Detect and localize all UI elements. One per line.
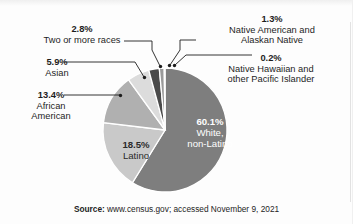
slice-name-asian: Asian: [28, 68, 86, 79]
pie-slice: [164, 68, 165, 130]
slice-label-native-american: 1.3% Native American and Alaskan Native: [196, 14, 348, 46]
leader-dot-asian: [143, 76, 146, 79]
slice-label-two-or-more-races: 2.8% Two or more races: [6, 24, 158, 45]
slice-name-african-american-line2: American: [12, 111, 90, 122]
slice-pct-african-american: 13.4%: [12, 90, 90, 101]
slice-pct-asian: 5.9%: [28, 57, 86, 68]
leader-dot-two-or-more-races: [159, 65, 162, 68]
slice-name-native-american-line2: Alaskan Native: [196, 35, 348, 46]
slice-name-two-or-more-races: Two or more races: [6, 35, 158, 46]
slice-name-latino: Latino: [104, 151, 168, 162]
slice-label-latino: 18.5% Latino: [104, 140, 168, 162]
leader-dot-african-american: [119, 94, 122, 97]
pie-chart: 2.8% Two or more races 5.9% Asian 13.4% …: [0, 0, 353, 224]
slice-name-white-non-latino-line2: non-Latino: [174, 139, 246, 150]
slice-label-asian: 5.9% Asian: [28, 57, 86, 78]
figure-page: 2.8% Two or more races 5.9% Asian 13.4% …: [0, 0, 353, 224]
slice-pct-native-hawaiian: 0.2%: [192, 53, 350, 64]
source-label: Source:: [74, 204, 105, 214]
leader-dot-native-hawaiian: [173, 64, 176, 67]
source-text: www.census.gov; accessed November 9, 202…: [105, 204, 279, 214]
slice-name-native-american-line1: Native American and: [196, 25, 348, 36]
slice-pct-native-american: 1.3%: [196, 14, 348, 25]
slice-label-white-non-latino: 60.1% White, non-Latino: [174, 117, 246, 150]
leader-dot-native-american: [168, 64, 171, 67]
slice-label-african-american: 13.4% African American: [12, 90, 90, 122]
slice-name-native-hawaiian-line2: other Pacific Islander: [192, 74, 350, 85]
slice-pct-two-or-more-races: 2.8%: [6, 24, 158, 35]
slice-name-african-american-line1: African: [12, 101, 90, 112]
slice-label-native-hawaiian: 0.2% Native Hawaiian and other Pacific I…: [192, 53, 350, 85]
slice-name-native-hawaiian-line1: Native Hawaiian and: [192, 64, 350, 75]
source-note: Source: www.census.gov; accessed Novembe…: [0, 204, 353, 214]
